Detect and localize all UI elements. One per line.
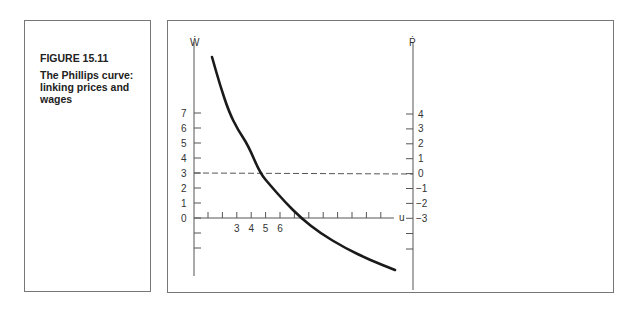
- right-tick-label: −1: [416, 183, 428, 194]
- left-tick-label: 4: [181, 153, 187, 164]
- left-tick-label: 1: [181, 198, 187, 209]
- phillips-curve: [212, 57, 395, 270]
- left-tick-label: 6: [181, 123, 187, 134]
- left-tick-label: 0: [181, 213, 187, 224]
- left-tick-label: 3: [181, 168, 187, 179]
- phillips-curve-chart: Ẇ 76543210 Ṗ 43210−1−2−3 3456 u: [0, 0, 639, 310]
- left-tick-label: 5: [181, 138, 187, 149]
- x-tick-label: 4: [248, 223, 254, 234]
- right-tick-label: −2: [416, 198, 428, 209]
- right-tick-label: 4: [418, 109, 424, 120]
- right-tick-label: 3: [418, 123, 424, 134]
- right-axis-ticks: 43210−1−2−3: [406, 109, 428, 250]
- left-axis-ticks: 76543210: [181, 108, 201, 249]
- right-tick-label: −3: [416, 213, 428, 224]
- x-tick-label: 3: [234, 223, 240, 234]
- right-tick-label: 1: [418, 153, 424, 164]
- left-axis-label: Ẇ: [190, 36, 200, 48]
- x-axis-ticks: 3456: [208, 212, 381, 234]
- x-axis-label: u: [399, 212, 405, 223]
- right-axis-label: Ṗ: [409, 36, 416, 48]
- reference-dashed-line: [194, 173, 413, 174]
- left-tick-label: 7: [181, 108, 187, 119]
- right-tick-label: 0: [418, 168, 424, 179]
- right-tick-label: 2: [418, 138, 424, 149]
- x-tick-label: 5: [263, 223, 269, 234]
- left-tick-label: 2: [181, 183, 187, 194]
- x-tick-label: 6: [277, 223, 283, 234]
